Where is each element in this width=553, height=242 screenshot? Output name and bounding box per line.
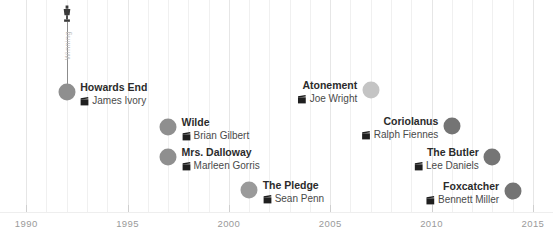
timeline-scatter-chart: 199019952000200520102015 Winning Howards… <box>0 0 553 242</box>
point-label: Mrs. DallowayMarleen Gorris <box>182 146 260 172</box>
gridline-minor <box>371 0 372 212</box>
clapperboard-icon <box>263 194 272 204</box>
gridline-minor <box>168 0 169 212</box>
trophy-icon <box>61 5 72 28</box>
director-row: Ralph Fiennes <box>362 128 438 141</box>
gridline-minor <box>513 0 514 212</box>
director-name: Sean Penn <box>275 192 325 205</box>
film-title: Howards End <box>80 81 147 94</box>
gridline-major <box>229 0 230 212</box>
clapperboard-icon <box>298 94 307 104</box>
axis-rule <box>0 212 553 213</box>
data-point[interactable] <box>362 82 379 99</box>
clapperboard-icon <box>362 130 371 140</box>
gridline-minor <box>350 0 351 212</box>
data-point[interactable] <box>58 84 75 101</box>
axis-tick <box>128 205 129 212</box>
axis-tick-label-2010: 2010 <box>420 218 443 229</box>
film-title: Foxcatcher <box>426 180 499 193</box>
director-name: Lee Daniels <box>426 159 479 172</box>
data-point[interactable] <box>443 118 460 135</box>
gridline-major <box>330 0 331 212</box>
director-name: Marleen Gorris <box>194 159 260 172</box>
director-row: Marleen Gorris <box>182 159 260 172</box>
axis-tick-label-1990: 1990 <box>15 218 38 229</box>
film-title: Wilde <box>182 116 250 129</box>
film-title: Mrs. Dalloway <box>182 146 260 159</box>
data-point[interactable] <box>160 119 177 136</box>
director-row: Bennett Miller <box>426 193 499 206</box>
clapperboard-icon <box>414 161 423 171</box>
director-row: Joe Wright <box>298 92 358 105</box>
film-title: The Butler <box>414 146 479 159</box>
axis-tick <box>229 205 230 212</box>
point-label: The PledgeSean Penn <box>263 179 325 205</box>
director-name: Brian Gilbert <box>194 129 250 142</box>
point-label: The ButlerLee Daniels <box>414 146 479 172</box>
data-point[interactable] <box>504 183 521 200</box>
data-point[interactable] <box>484 149 501 166</box>
axis-tick-label-2015: 2015 <box>522 218 545 229</box>
point-label: AtonementJoe Wright <box>298 79 358 105</box>
director-name: Joe Wright <box>310 92 358 105</box>
point-label: WildeBrian Gilbert <box>182 116 250 142</box>
axis-tick-label-2005: 2005 <box>319 218 342 229</box>
axis-tick <box>26 205 27 212</box>
axis-tick <box>533 205 534 212</box>
clapperboard-icon <box>182 131 191 141</box>
axis-tick-label-1995: 1995 <box>116 218 139 229</box>
axis-tick-label-2000: 2000 <box>218 218 241 229</box>
gridline-minor <box>209 0 210 212</box>
gridline-major <box>533 0 534 212</box>
point-label: FoxcatcherBennett Miller <box>426 180 499 206</box>
clapperboard-icon <box>80 96 89 106</box>
clapperboard-icon <box>426 195 435 205</box>
director-name: James Ivory <box>92 94 146 107</box>
film-title: Atonement <box>298 79 358 92</box>
director-row: Sean Penn <box>263 192 325 205</box>
gridline-minor <box>391 0 392 212</box>
gridline-minor <box>411 0 412 212</box>
point-label: Howards EndJames Ivory <box>80 81 147 107</box>
data-point[interactable] <box>241 182 258 199</box>
axis-tick <box>330 205 331 212</box>
axis-tick <box>432 205 433 212</box>
point-label: CoriolanusRalph Fiennes <box>362 115 438 141</box>
director-row: James Ivory <box>80 94 147 107</box>
annotation-label: Winning <box>64 31 71 60</box>
gridline-minor <box>148 0 149 212</box>
director-name: Ralph Fiennes <box>374 128 438 141</box>
director-row: Lee Daniels <box>414 159 479 172</box>
gridline-minor <box>46 0 47 212</box>
film-title: Coriolanus <box>362 115 438 128</box>
film-title: The Pledge <box>263 179 325 192</box>
gridline-minor <box>249 0 250 212</box>
gridline-major <box>26 0 27 212</box>
clapperboard-icon <box>182 161 191 171</box>
gridline-minor <box>188 0 189 212</box>
director-row: Brian Gilbert <box>182 129 250 142</box>
data-point[interactable] <box>160 149 177 166</box>
director-name: Bennett Miller <box>438 193 499 206</box>
